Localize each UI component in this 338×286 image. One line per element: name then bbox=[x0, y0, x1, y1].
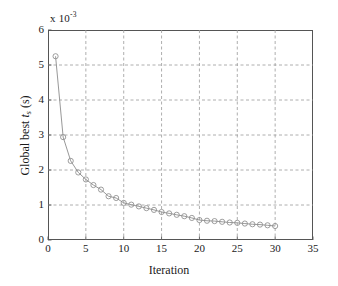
x-tick-label: 25 bbox=[222, 243, 252, 254]
x-tick-label: 35 bbox=[298, 243, 328, 254]
x-tick-label: 30 bbox=[260, 243, 290, 254]
plot-area bbox=[48, 30, 313, 240]
x-tick-label: 20 bbox=[184, 243, 214, 254]
x-tick-label: 10 bbox=[109, 243, 139, 254]
y-axis-title: Global best ts (s) bbox=[18, 51, 33, 221]
x-tick-label: 0 bbox=[33, 243, 63, 254]
y-axis-title-variable: t bbox=[18, 114, 32, 117]
exponent-prefix: x 10 bbox=[50, 12, 70, 24]
y-tick-label: 6 bbox=[4, 24, 44, 35]
y-axis-title-text: Global best bbox=[18, 118, 32, 176]
exponent-power: -3 bbox=[70, 10, 77, 19]
x-axis-title: Iteration bbox=[0, 263, 338, 278]
x-tick-label: 5 bbox=[71, 243, 101, 254]
y-axis-title-unit: (s) bbox=[18, 95, 32, 111]
y-axis-exponent-label: x 10-3 bbox=[50, 10, 77, 24]
x-tick-label: 15 bbox=[147, 243, 177, 254]
y-axis-title-subscript: s bbox=[24, 111, 33, 114]
chart-figure: x 10-3 0123456 05101520253035 Iteration … bbox=[0, 0, 338, 286]
